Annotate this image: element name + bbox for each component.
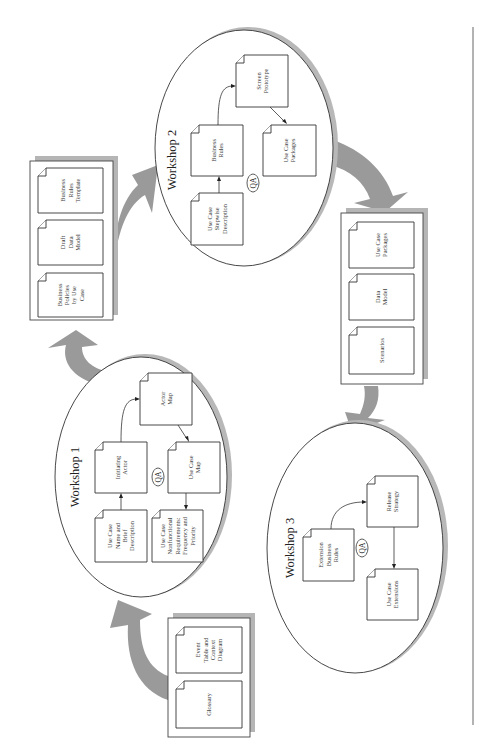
doc-business-rules-template: BusinessRulesTemplate bbox=[38, 168, 103, 213]
doc-label-line: Business bbox=[56, 283, 63, 306]
doc-business-policies: BusinessPoliciesby UseCase bbox=[38, 273, 103, 317]
workshop1: Workshop 1 Use CaseName andBriefDescript… bbox=[55, 354, 232, 597]
doc-label-line: Data bbox=[374, 291, 381, 303]
doc-label-line: Packages bbox=[289, 138, 296, 162]
doc-event-table: EventTable andContextDiagram bbox=[176, 627, 242, 673]
flow-arrow-outputs1-to-workshop2 bbox=[114, 165, 158, 265]
doc-label-line: Extensions bbox=[392, 580, 399, 609]
doc-initiating-actor: InitiatingActor bbox=[95, 442, 147, 493]
doc-label-line: Use Case bbox=[187, 455, 194, 479]
doc-label-line: Rules bbox=[67, 183, 74, 198]
doc-use-case-nonfunctional: Use CaseNonfunctionalRequirements:Freque… bbox=[152, 510, 203, 562]
doc-label-line: Packages bbox=[381, 233, 388, 257]
doc-label-line: Brief bbox=[121, 529, 128, 543]
doc-label-line: Frequency and bbox=[181, 516, 188, 555]
doc-use-case-extensions: Use CaseExtensions bbox=[367, 569, 418, 620]
doc-data-model: DataModel bbox=[349, 274, 414, 320]
doc-label-line: Draft bbox=[59, 236, 66, 250]
doc-label-line: Use Case bbox=[159, 524, 166, 548]
doc-release-strategy: ReleaseStrategy bbox=[367, 476, 418, 527]
doc-label-line: Actor bbox=[159, 391, 166, 406]
doc-label-line: Model bbox=[381, 288, 388, 305]
doc-label-line: Glossary bbox=[205, 692, 212, 716]
workshop-process-diagram: EventTable andContextDiagram Glossary Wo… bbox=[0, 0, 479, 754]
doc-label-line: Prototype bbox=[262, 68, 269, 93]
doc-label-line: Business bbox=[59, 179, 66, 202]
doc-label-line: Diagram bbox=[216, 639, 223, 661]
doc-label-line: Template bbox=[74, 178, 81, 202]
svg-text:QA: QA bbox=[358, 542, 367, 553]
flow-arrow-workshop2-to-outputs2 bbox=[330, 140, 408, 212]
doc-label-line: Use Case bbox=[282, 138, 289, 162]
doc-draft-data-model: DraftDataModel bbox=[38, 220, 103, 265]
doc-label-line: Use Case bbox=[106, 524, 113, 548]
workshop3-label: Workshop 3 bbox=[283, 518, 297, 578]
doc-actor-map: ActorMap bbox=[140, 373, 192, 425]
doc-label-line: Nonfunctional bbox=[166, 517, 173, 554]
doc-label-line: Business bbox=[325, 543, 332, 566]
doc-label-line: Policies bbox=[63, 284, 70, 305]
doc-scenarios: Scenarios bbox=[349, 327, 414, 374]
doc-label-line: Model bbox=[74, 234, 81, 251]
doc-label-line: Table and bbox=[202, 637, 209, 663]
svg-text:QA: QA bbox=[154, 471, 163, 482]
doc-label-line: Rules bbox=[332, 547, 339, 562]
outputs2-box: Use CasePackages DataModel Scenarios bbox=[341, 208, 428, 384]
doc-label-line: Use Case bbox=[374, 233, 381, 257]
doc-label-line: Initiating bbox=[114, 455, 121, 479]
doc-use-case-packages: Use CasePackages bbox=[263, 125, 316, 176]
doc-label-line: by Use bbox=[70, 286, 77, 304]
doc-use-case-stepwise: Use CaseStepwiseDescription bbox=[191, 193, 243, 245]
doc-label-line: Actor bbox=[121, 459, 128, 474]
flow-arrow-inputs-to-workshop1 bbox=[110, 600, 168, 700]
doc-label-line: Screen bbox=[255, 72, 262, 90]
doc-use-case-map: Use CaseMap bbox=[168, 442, 220, 493]
doc-business-rules: BusinessRules bbox=[191, 125, 243, 176]
doc-label-line: Description bbox=[128, 520, 135, 551]
doc-label-line: Strategy bbox=[392, 490, 399, 512]
workshop3: Workshop 3 ExtensionBusinessRules Releas… bbox=[267, 420, 448, 673]
doc-label-line: Case bbox=[78, 289, 85, 302]
doc-use-case-packages-out: Use CasePackages bbox=[349, 222, 414, 268]
outputs1-box: BusinessRulesTemplate DraftDataModel Bus… bbox=[30, 156, 118, 320]
doc-label-line: Priority bbox=[189, 525, 196, 545]
workshop2-label: Workshop 2 bbox=[165, 130, 179, 190]
doc-label-line: Context bbox=[209, 640, 216, 660]
doc-label-line: Data bbox=[67, 236, 74, 248]
workshop1-label: Workshop 1 bbox=[68, 447, 82, 507]
doc-label-line: Extension bbox=[317, 541, 324, 567]
doc-use-case-name: Use CaseName andBriefDescription bbox=[95, 510, 147, 562]
doc-label-line: Map bbox=[194, 462, 201, 474]
doc-label-line: Name and bbox=[114, 522, 121, 549]
doc-label-line: Business bbox=[210, 139, 217, 162]
doc-glossary: Glossary bbox=[176, 681, 242, 728]
doc-label-line: Description bbox=[221, 203, 228, 234]
inputs-box: EventTable andContextDiagram Glossary bbox=[168, 613, 255, 737]
doc-label-line: Map bbox=[166, 393, 173, 405]
doc-screen-prototype: ScreenPrototype bbox=[236, 55, 288, 107]
doc-extension-business-rules: ExtensionBusinessRules bbox=[303, 529, 354, 581]
svg-text:QA: QA bbox=[249, 177, 258, 188]
qa-badge-workshop2: QA bbox=[247, 174, 259, 192]
doc-label-line: Use Case bbox=[385, 582, 392, 606]
workshop2: Workshop 2 ScreenPrototype BusinessRules… bbox=[155, 27, 338, 266]
qa-badge-workshop3: QA bbox=[356, 539, 368, 557]
qa-badge-workshop1: QA bbox=[152, 468, 164, 486]
doc-label-line: Scenarios bbox=[378, 338, 385, 363]
doc-label-line: Requirements: bbox=[174, 517, 181, 554]
doc-label-line: Event bbox=[194, 642, 201, 657]
doc-label-line: Use Case bbox=[206, 207, 213, 231]
doc-label-line: Stepwise bbox=[213, 207, 220, 230]
doc-label-line: Rules bbox=[217, 143, 224, 158]
doc-label-line: Release bbox=[385, 491, 392, 511]
